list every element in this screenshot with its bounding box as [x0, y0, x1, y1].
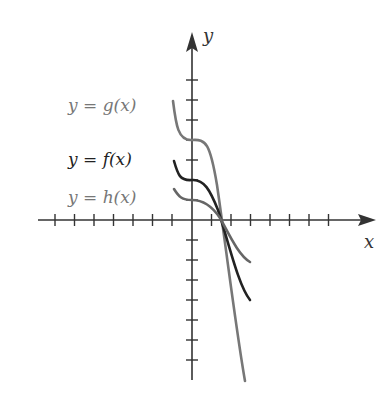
x-axis: [38, 214, 376, 226]
curve-g: [173, 101, 245, 381]
y-axis: [186, 32, 198, 380]
label-g: y = g(x): [67, 95, 136, 115]
label-h: y = h(x): [67, 187, 136, 207]
label-f: y = f(x): [67, 149, 132, 169]
curve-f: [174, 161, 250, 300]
function-graph: x y y = g(x) y = f(x) y = h(x): [0, 0, 392, 416]
x-axis-label: x: [364, 231, 374, 252]
y-axis-label: y: [202, 25, 214, 46]
